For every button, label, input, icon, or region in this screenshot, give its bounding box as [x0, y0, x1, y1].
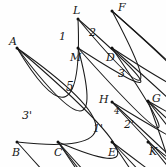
vertex-dot-k — [147, 141, 150, 144]
region-3-prime-label: 3' — [22, 110, 32, 121]
vertex-label-g: G — [152, 93, 161, 104]
vertex-label-c: C — [54, 147, 63, 158]
vertex-label-m: M — [70, 52, 81, 63]
region-2-label: 2 — [89, 27, 96, 38]
region-1-prime-label: 1' — [93, 123, 103, 134]
region-2-prime-label: 2' — [124, 119, 134, 130]
vertex-label-d: D — [106, 52, 115, 63]
region-4-label: 4 — [114, 107, 120, 116]
vertex-dot-m — [77, 47, 80, 50]
vertex-label-a: A — [9, 36, 17, 47]
vertex-dot-e — [111, 141, 114, 144]
vertex-label-l: L — [73, 5, 81, 16]
segment-L-F — [78, 11, 141, 80]
vertex-dot-f — [111, 10, 114, 13]
segment-H-E — [112, 102, 166, 167]
vertex-dot-g — [147, 100, 150, 103]
vertex-label-e: E — [108, 147, 116, 158]
vertex-label-k: K — [149, 146, 157, 157]
vertex-dot-h — [111, 101, 114, 104]
vertex-dot-c — [57, 141, 60, 144]
region-5-label: 5 — [66, 81, 74, 93]
vertex-dot-b — [16, 141, 19, 144]
diagram-canvas — [0, 0, 166, 167]
vertex-label-f: F — [118, 2, 126, 13]
vertex-label-h: H — [99, 94, 109, 105]
vertex-dot-l — [77, 18, 80, 21]
vertex-dot-d — [111, 47, 114, 50]
geometry-diagram: ALFMDHGBCEK 12353'41'2' — [0, 0, 166, 167]
vertex-label-b: B — [12, 147, 20, 158]
region-1-label: 1 — [59, 31, 66, 42]
region-3-label: 3 — [118, 68, 125, 79]
